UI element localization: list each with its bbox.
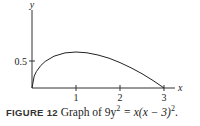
figure-caption: FIGURE 12 Graph of 9y2 = x(x − 3)2.: [6, 104, 178, 118]
caption-part: Graph of 9y: [61, 106, 117, 118]
y-axis-label: y: [29, 0, 35, 10]
curve-9y2-eq-x-x-minus-3-sq: [32, 52, 164, 88]
caption-part: .: [175, 106, 178, 118]
x-tick-label-2: 2: [118, 92, 123, 103]
caption-text: Graph of 9y2 = x(x − 3)2.: [61, 106, 178, 118]
x-axis-label: x: [177, 82, 183, 93]
caption-part: = x(x − 3): [120, 106, 171, 118]
figure-label: FIGURE 12: [6, 107, 58, 118]
x-tick-label-1: 1: [74, 92, 79, 103]
y-tick-label-0.5: 0.5: [15, 56, 28, 67]
x-tick-label-3: 3: [162, 92, 167, 103]
